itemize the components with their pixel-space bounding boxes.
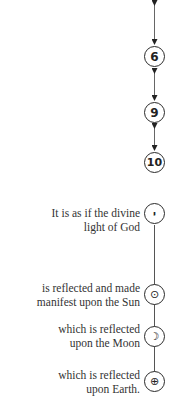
- yod-icon: י: [153, 209, 156, 219]
- earth-node: ⊕: [144, 371, 165, 392]
- node-9: 9: [144, 102, 165, 123]
- moon-node: ☽: [144, 326, 165, 347]
- sun-icon: ⊙: [150, 289, 159, 300]
- caption-divine-light: It is as if the divine light of God: [52, 206, 140, 234]
- moon-icon: ☽: [150, 331, 160, 342]
- node-6: 6: [144, 46, 165, 67]
- node-10: 10: [144, 152, 165, 173]
- node-label: 10: [147, 157, 162, 168]
- caption-moon: which is reflected upon the Moon: [58, 322, 140, 350]
- caption-sun: is reflected and made manifest upon the …: [37, 281, 140, 309]
- caption-earth: which is reflected upon Earth.: [58, 368, 140, 396]
- node-label: 9: [150, 107, 158, 119]
- earth-icon: ⊕: [150, 376, 159, 387]
- yod-node: י: [144, 203, 165, 224]
- node-label: 6: [150, 51, 158, 63]
- sun-node: ⊙: [144, 284, 165, 305]
